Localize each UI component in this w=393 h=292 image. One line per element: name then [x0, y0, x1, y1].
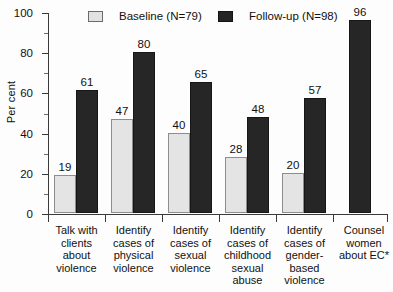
plot-area: 0 20 40 60 80 100 19	[48, 13, 388, 214]
category-line: Identify	[105, 224, 162, 237]
category-line: cases of	[276, 237, 333, 250]
y-tick-label-20: 20	[20, 168, 33, 180]
category-line: physical	[105, 249, 162, 262]
category-line: Talk with	[48, 224, 105, 237]
bar-followup-talk-with-clients[interactable]: 61	[76, 90, 98, 213]
x-tick-group-4-5	[276, 214, 277, 222]
category-line: about EC*	[333, 249, 393, 262]
category-line: women	[333, 237, 393, 250]
y-tick-100: 100	[42, 13, 48, 14]
bar-followup-counsel-women-about-ec[interactable]: 96	[349, 20, 371, 213]
category-line: cases of	[162, 237, 219, 250]
bar-value-baseline-1: 19	[59, 161, 72, 173]
bar-value-followup-5: 57	[309, 84, 322, 96]
bar-followup-gender-based-violence[interactable]: 57	[304, 98, 326, 213]
category-line: violence	[48, 262, 105, 275]
x-tick-group-start	[48, 214, 49, 222]
category-line: Counsel	[333, 224, 393, 237]
y-tick-label-0: 0	[27, 208, 33, 220]
x-tick-group-5-6	[333, 214, 334, 222]
category-label-gender-based-violence: Identify cases of gender- based violence	[276, 224, 333, 287]
bar-chart: Baseline (N=79) Follow-up (N=98) Per cen…	[0, 0, 393, 292]
category-line: Identify	[276, 224, 333, 237]
bar-value-followup-2: 80	[138, 38, 151, 50]
category-line: childhood	[219, 249, 276, 262]
y-axis-line	[48, 13, 49, 215]
y-tick-label-80: 80	[20, 47, 33, 59]
bar-value-baseline-4: 28	[230, 143, 243, 155]
category-line: cases of	[105, 237, 162, 250]
bar-baseline-physical-violence[interactable]: 47	[111, 119, 133, 214]
x-tick-group-2-3	[162, 214, 163, 222]
x-axis-line	[48, 214, 388, 215]
bar-value-followup-6: 96	[354, 6, 367, 18]
category-label-talk-with-clients: Talk with clients about violence	[48, 224, 105, 274]
category-line: abuse	[219, 274, 276, 287]
x-tick-group-end	[387, 214, 388, 222]
category-label-physical-violence: Identify cases of physical violence	[105, 224, 162, 274]
bar-value-followup-4: 48	[252, 103, 265, 115]
category-line: based	[276, 262, 333, 275]
category-line: violence	[276, 274, 333, 287]
bar-baseline-childhood-sexual-abuse[interactable]: 28	[225, 157, 247, 213]
y-tick-20: 20	[42, 174, 48, 175]
y-tick-60: 60	[42, 93, 48, 94]
y-tick-minor-90	[44, 33, 48, 34]
bar-baseline-gender-based-violence[interactable]: 20	[282, 173, 304, 213]
bar-followup-physical-violence[interactable]: 80	[133, 52, 155, 213]
category-label-counsel-women-about-ec: Counsel women about EC*	[333, 224, 393, 262]
category-line: gender-	[276, 249, 333, 262]
bar-value-followup-3: 65	[195, 68, 208, 80]
y-tick-minor-70	[44, 73, 48, 74]
x-tick-group-1-2	[105, 214, 106, 222]
y-tick-label-60: 60	[20, 87, 33, 99]
y-tick-label-100: 100	[14, 7, 33, 19]
category-line: cases of	[219, 237, 276, 250]
y-tick-minor-50	[44, 114, 48, 115]
bar-baseline-talk-with-clients[interactable]: 19	[54, 175, 76, 213]
y-tick-minor-10	[44, 194, 48, 195]
y-tick-label-40: 40	[20, 128, 33, 140]
bar-baseline-sexual-violence[interactable]: 40	[168, 133, 190, 213]
category-line: Identify	[162, 224, 219, 237]
bar-followup-childhood-sexual-abuse[interactable]: 48	[247, 117, 269, 214]
category-line: Identify	[219, 224, 276, 237]
category-line: sexual	[162, 249, 219, 262]
bar-value-baseline-2: 47	[116, 105, 129, 117]
category-label-childhood-sexual-abuse: Identify cases of childhood sexual abuse	[219, 224, 276, 287]
x-tick-group-3-4	[219, 214, 220, 222]
x-axis-category-labels: Talk with clients about violence Identif…	[48, 224, 388, 290]
category-line: sexual	[219, 262, 276, 275]
category-line: clients	[48, 237, 105, 250]
y-tick-minor-30	[44, 154, 48, 155]
y-axis-label: Per cent	[5, 70, 17, 134]
category-label-sexual-violence: Identify cases of sexual violence	[162, 224, 219, 274]
bar-value-followup-1: 61	[81, 76, 94, 88]
y-tick-80: 80	[42, 53, 48, 54]
category-line: violence	[105, 262, 162, 275]
bar-value-baseline-3: 40	[173, 119, 186, 131]
y-tick-40: 40	[42, 134, 48, 135]
category-line: violence	[162, 262, 219, 275]
category-line: about	[48, 249, 105, 262]
bar-followup-sexual-violence[interactable]: 65	[190, 82, 212, 213]
bar-value-baseline-5: 20	[287, 159, 300, 171]
